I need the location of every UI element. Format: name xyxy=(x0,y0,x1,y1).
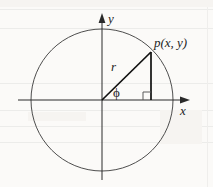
radius-label: r xyxy=(111,60,116,73)
point-label: p(x, y) xyxy=(154,36,187,49)
y-axis-label: y xyxy=(108,12,114,25)
y-axis-arrowhead xyxy=(99,13,106,23)
polar-coordinate-diagram: y x r p(x, y) ϕ xyxy=(0,0,213,187)
diagram-canvas xyxy=(0,0,213,187)
right-angle-marker xyxy=(143,92,151,100)
radius-segment xyxy=(102,52,151,100)
x-axis-label: x xyxy=(180,104,186,117)
angle-phi-label: ϕ xyxy=(113,86,120,99)
